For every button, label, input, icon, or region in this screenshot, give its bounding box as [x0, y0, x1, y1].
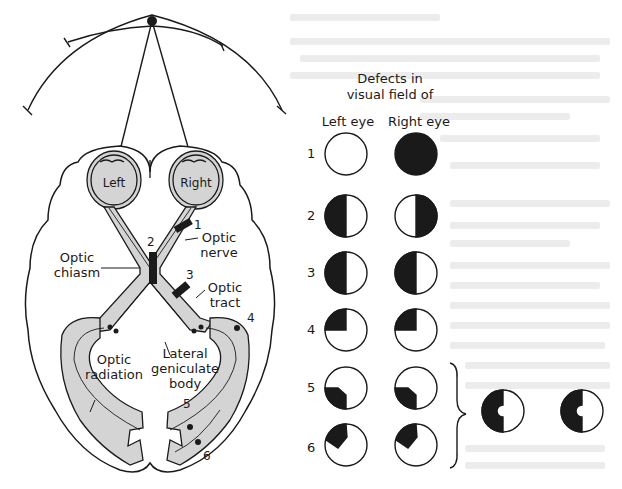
- field-3-right: [395, 252, 437, 294]
- field-6-right: [395, 424, 437, 466]
- optic-tract-label: Optictract: [205, 280, 245, 310]
- field-1-left: [325, 133, 367, 175]
- title-line-2: visual field of: [340, 87, 440, 103]
- field-3-left: [325, 252, 367, 294]
- row-number-6: 6: [307, 440, 315, 455]
- row-number-1: 1: [307, 146, 315, 161]
- left-eye-label: Left: [98, 176, 130, 191]
- lateral-geniculate-body-label: Lateralgeniculatebody: [150, 346, 220, 391]
- row-number-5: 5: [307, 380, 315, 395]
- field-2-right: [395, 195, 437, 237]
- visual-pathway-diagram: [0, 0, 622, 489]
- field-6-left: [325, 424, 367, 466]
- lesion-number-3: 3: [186, 268, 194, 282]
- lesion-number-5: 5: [183, 397, 191, 411]
- fixation-point: [147, 16, 157, 26]
- grouping-brace: [450, 363, 466, 468]
- field-combined-right: [561, 390, 603, 432]
- left-eye-column-header: Left eye: [318, 114, 378, 129]
- row-number-4: 4: [307, 322, 315, 337]
- field-4-right: [395, 309, 437, 351]
- lesion-number-4: 4: [247, 311, 255, 325]
- field-4-left: [325, 309, 367, 351]
- lesion-number-2: 2: [147, 235, 155, 249]
- defects-title: Defects in visual field of: [340, 71, 440, 103]
- right-eye-column-header: Right eye: [384, 114, 454, 129]
- lesion-2-bar: [149, 252, 157, 284]
- optic-nerve-label: Opticnerve: [198, 230, 240, 260]
- field-2-left: [325, 195, 367, 237]
- row-number-3: 3: [307, 265, 315, 280]
- inner-field-arc: [68, 26, 223, 46]
- lesion-number-6: 6: [203, 449, 211, 463]
- field-5-right: [395, 367, 437, 409]
- right-eye-label: Right: [177, 176, 215, 191]
- field-5-left: [325, 367, 367, 409]
- title-line-1: Defects in: [340, 71, 440, 87]
- field-combined-left: [482, 390, 524, 432]
- field-1-right: [395, 133, 437, 175]
- optic-chiasm-label: Opticchiasm: [52, 250, 102, 280]
- row-number-2: 2: [307, 208, 315, 223]
- optic-radiation-label: Opticradiation: [84, 352, 144, 382]
- lesion-number-1: 1: [194, 218, 202, 232]
